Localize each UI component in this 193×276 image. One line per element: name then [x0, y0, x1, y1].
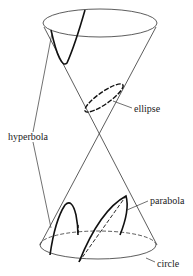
cone-generator-right: [40, 27, 156, 245]
parabola-section-hidden: [79, 196, 126, 262]
hyperbola-leader-up: [33, 33, 52, 132]
parabola-label: parabola: [150, 195, 185, 206]
lower-cone-rim-front: [40, 245, 156, 259]
ellipse-leader: [113, 101, 132, 108]
lower-cone-rim-back: [40, 231, 156, 245]
upper-cone-rim: [43, 9, 157, 37]
hyperbola-label: hyperbola: [8, 131, 49, 142]
parabola-leader: [127, 201, 148, 210]
hyperbola-lower-branch: [50, 203, 78, 255]
conic-sections-diagram: ellipse hyperbola parabola circle: [0, 0, 193, 276]
circle-label: circle: [157, 258, 180, 269]
hyperbola-leader-down: [33, 142, 51, 228]
hyperbola-upper-branch: [51, 10, 85, 64]
circle-leader: [146, 258, 155, 262]
ellipse-label: ellipse: [134, 103, 161, 114]
ellipse-section: [82, 80, 127, 116]
